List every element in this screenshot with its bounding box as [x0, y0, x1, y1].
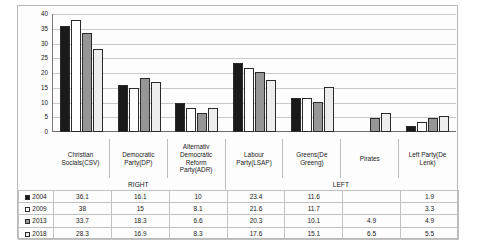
y-tick-30: 30 [41, 41, 48, 47]
wing-label-left: LEFT [225, 178, 456, 190]
chart-figure: 4035302520151050 Christian Socials(CSV)D… [17, 5, 458, 239]
bar [118, 85, 128, 132]
table-cell: 8.1 [169, 203, 227, 215]
legend-swatch-icon [25, 232, 30, 237]
y-tick-15: 15 [41, 85, 48, 91]
bar [406, 126, 416, 132]
table-cell: 36.1 [54, 191, 112, 203]
bar [313, 102, 323, 132]
table-cell: 11.6 [285, 191, 343, 203]
table-cell: 1.9 [401, 191, 459, 203]
bar [302, 98, 312, 133]
category-label: Left Party(De Lenk) [398, 139, 456, 178]
political-wing-band: RIGHT LEFT [52, 178, 456, 190]
category-label: Democratic Party(DP) [109, 139, 167, 178]
category-label: Pirates [340, 139, 398, 178]
bar [71, 20, 81, 132]
table-row: 201828.316.98.317.615.16.55.5 [19, 227, 459, 239]
legend-cell: 2018 [19, 227, 54, 239]
table-cell: 5.5 [401, 227, 459, 239]
bar [140, 78, 150, 132]
legend-series-label: 2004 [32, 193, 46, 200]
table-cell: 23.4 [227, 191, 285, 203]
table-cell: 21.6 [227, 203, 285, 215]
bar [266, 80, 276, 132]
bar-group [398, 14, 456, 132]
category-axis-labels: Christian Socials(CSV)Democratic Party(D… [52, 139, 456, 178]
plot-area: 4035302520151050 [18, 6, 459, 139]
bar [82, 33, 92, 132]
y-tick-0: 0 [44, 129, 48, 135]
table-cell: 16.1 [111, 191, 169, 203]
bar [186, 108, 196, 132]
table-cell: 11.7 [285, 203, 343, 215]
table-cell: 15 [111, 203, 169, 215]
wing-label-right: RIGHT [52, 178, 225, 190]
table-cell: 18.3 [111, 215, 169, 227]
bar-group [53, 14, 111, 132]
table-cell: 28.3 [54, 227, 112, 239]
bar [60, 26, 70, 132]
bar-series-layer [53, 14, 456, 132]
table-cell: 4.9 [401, 215, 459, 227]
table-cell: 4.9 [343, 215, 401, 227]
table-cell: 10 [169, 191, 227, 203]
bar [197, 113, 207, 132]
bar-group [341, 14, 399, 132]
category-label: Labour Party(LSAP) [225, 139, 283, 178]
legend-cell: 2013 [19, 215, 54, 227]
bar [370, 118, 380, 132]
table-cell [343, 203, 401, 215]
table-cell: 20.3 [227, 215, 285, 227]
bar-group [111, 14, 169, 132]
data-table: 200436.116.11023.411.61.9200938158.121.6… [18, 190, 459, 240]
table-row: 200436.116.11023.411.61.9 [19, 191, 459, 203]
table-cell: 6.6 [169, 215, 227, 227]
table-cell: 10.1 [285, 215, 343, 227]
bar [129, 88, 139, 132]
table-row: 201333.718.36.620.310.14.94.9 [19, 215, 459, 227]
category-label: Christian Socials(CSV) [52, 139, 109, 178]
table-cell: 3.3 [401, 203, 459, 215]
legend-swatch-icon [25, 195, 30, 200]
legend-series-label: 2009 [32, 205, 46, 212]
table-cell: 33.7 [54, 215, 112, 227]
table-cell: 6.5 [343, 227, 401, 239]
table-cell: 38 [54, 203, 112, 215]
table-cell: 17.6 [227, 227, 285, 239]
bar [417, 122, 427, 132]
y-axis-tick-labels: 4035302520151050 [18, 14, 50, 132]
legend-cell: 2009 [19, 203, 54, 215]
bar-group [283, 14, 341, 132]
bar [428, 118, 438, 132]
bar [439, 116, 449, 132]
bar [324, 87, 334, 132]
legend-series-label: 2013 [32, 217, 46, 224]
y-tick-5: 5 [44, 114, 48, 120]
bar [255, 72, 265, 132]
bar-group [168, 14, 226, 132]
y-tick-25: 25 [41, 55, 48, 61]
bar-group [226, 14, 284, 132]
bar [381, 113, 391, 132]
legend-series-label: 2018 [32, 230, 46, 237]
data-table-body: 200436.116.11023.411.61.9200938158.121.6… [19, 191, 459, 240]
legend-swatch-icon [25, 207, 30, 212]
y-tick-35: 35 [41, 26, 48, 32]
y-tick-40: 40 [41, 11, 48, 17]
y-tick-20: 20 [41, 70, 48, 76]
table-cell: 16.9 [111, 227, 169, 239]
bar [151, 82, 161, 132]
bar [291, 98, 301, 132]
table-cell: 15.1 [285, 227, 343, 239]
legend-swatch-icon [25, 219, 30, 224]
bar [208, 108, 218, 132]
legend-cell: 2004 [19, 191, 54, 203]
bar [233, 63, 243, 132]
category-label: Alternativ Democratic Reform Party(ADR) [167, 139, 225, 178]
y-tick-10: 10 [41, 100, 48, 106]
table-cell: 8.3 [169, 227, 227, 239]
bar [93, 49, 103, 132]
bar [244, 68, 254, 132]
table-row: 200938158.121.611.73.3 [19, 203, 459, 215]
